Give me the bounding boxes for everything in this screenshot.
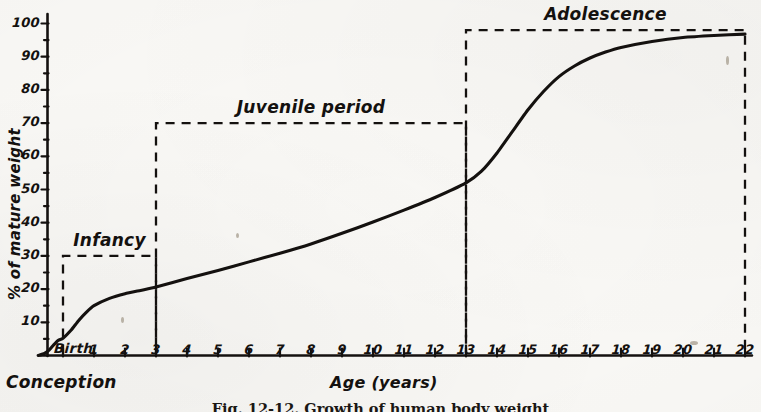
x-tick-label: 19 xyxy=(635,342,668,357)
y-tick-label: 90 xyxy=(3,48,40,63)
bracket-label: Juvenile period xyxy=(156,97,466,117)
x-tick-label: 16 xyxy=(542,342,575,357)
x-axis-title: Age (years) xyxy=(330,373,438,392)
x-tick-label: 5 xyxy=(201,342,234,357)
y-tick-label: 50 xyxy=(3,181,40,196)
figure-caption: Fig. 12-12. Growth of human body weight xyxy=(0,400,761,412)
x-tick-label: 2 xyxy=(108,342,141,357)
period-bracket xyxy=(63,256,156,354)
x-tick-label: 18 xyxy=(604,342,637,357)
period-brackets xyxy=(63,30,745,353)
bracket-label: Infancy xyxy=(63,230,156,250)
x-tick-label: 14 xyxy=(480,342,513,357)
x-tick-label: 4 xyxy=(170,342,203,357)
x-tick-label: 21 xyxy=(697,342,730,357)
y-tick-label: 30 xyxy=(3,247,40,262)
x-tick-label: 8 xyxy=(294,342,327,357)
y-tick-label: 10 xyxy=(3,313,40,328)
y-tick-label: 100 xyxy=(3,15,40,30)
x-tick-label: 11 xyxy=(387,342,420,357)
x-tick-label: 17 xyxy=(573,342,606,357)
x-tick-label: 13 xyxy=(449,342,482,357)
period-bracket xyxy=(156,123,466,353)
x-tick-label: 20 xyxy=(666,342,699,357)
x-tick-label: 15 xyxy=(511,342,544,357)
x-tick-label: 7 xyxy=(263,342,296,357)
growth-curve-line xyxy=(38,34,745,355)
x-tick-label: 12 xyxy=(418,342,451,357)
bracket-label: Adolescence xyxy=(466,4,745,24)
x-tick-label: 10 xyxy=(356,342,389,357)
y-tick-label: 20 xyxy=(3,280,40,295)
conception-label: Conception xyxy=(6,372,117,392)
growth-curve-figure: % of mature weight Age (years) Conceptio… xyxy=(0,0,761,412)
y-tick-label: 80 xyxy=(3,81,40,96)
x-tick-label: 6 xyxy=(232,342,265,357)
x-tick-label: 3 xyxy=(139,342,172,357)
x-tick-label: 9 xyxy=(325,342,358,357)
x-tick-label: 1 xyxy=(77,342,110,357)
x-tick-label: 22 xyxy=(728,342,761,357)
y-tick-label: 70 xyxy=(3,114,40,129)
y-tick-label: 40 xyxy=(3,214,40,229)
period-bracket xyxy=(466,30,745,353)
y-tick-label: 60 xyxy=(3,147,40,162)
